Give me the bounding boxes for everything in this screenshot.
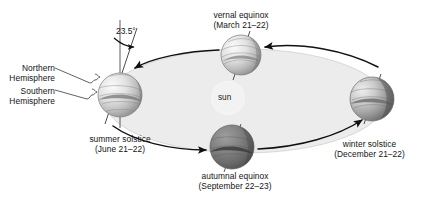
tilt-angle-label: 23.5° (116, 27, 136, 36)
vernal-equinox-date: (March 21–22) (213, 20, 268, 30)
label-northern-hemisphere: Northern Hemisphere (2, 63, 55, 83)
autumnal-equinox-name: autumnal equinox (202, 171, 269, 181)
sun-label: sun (218, 93, 231, 102)
seasons-orbit-diagram: 23.5° Northern Hemisphere Southern Hemis… (0, 0, 421, 203)
summer-solstice-name: summer solstice (89, 134, 150, 144)
northern-hemisphere-line2: Hemisphere (9, 73, 55, 83)
autumnal-equinox-date: (September 22–23) (198, 181, 271, 191)
label-summer-solstice: summer solstice (June 21–22) (63, 134, 177, 154)
label-winter-solstice: winter solstice (December 21–22) (318, 139, 421, 159)
southern-hemisphere-line2: Hemisphere (9, 96, 55, 106)
winter-solstice-name: winter solstice (343, 139, 396, 149)
label-southern-hemisphere: Southern Hemisphere (2, 86, 55, 106)
summer-solstice-date: (June 21–22) (95, 144, 145, 154)
vernal-equinox-name: vernal equinox (213, 10, 268, 20)
hemisphere-brace-northern (90, 74, 100, 83)
hemisphere-leader-lines (55, 68, 90, 99)
southern-hemisphere-line1: Southern (21, 86, 55, 96)
northern-hemisphere-line1: Northern (22, 63, 55, 73)
hemisphere-brace-southern (87, 89, 97, 99)
label-autumnal-equinox: autumnal equinox (September 22–23) (168, 171, 302, 191)
winter-solstice-date: (December 21–22) (334, 149, 405, 159)
label-vernal-equinox: vernal equinox (March 21–22) (186, 10, 296, 30)
